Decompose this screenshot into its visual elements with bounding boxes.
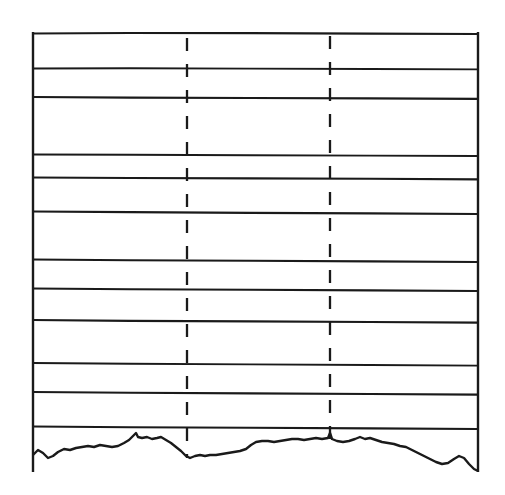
horizon-01 xyxy=(33,33,478,34)
canvas-background xyxy=(0,0,505,495)
figure-root xyxy=(0,0,505,495)
horizon-02 xyxy=(33,68,478,69)
cross-section-diagram xyxy=(0,0,505,495)
